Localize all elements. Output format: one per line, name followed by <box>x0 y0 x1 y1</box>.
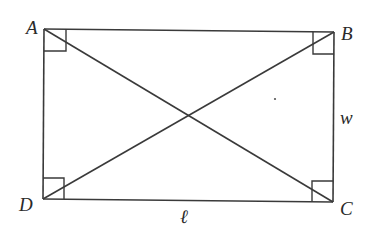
vertex-label-a: A <box>24 17 38 38</box>
side-ab <box>44 29 334 32</box>
vertex-label-d: D <box>18 194 33 215</box>
stray-dot <box>274 98 276 100</box>
side-da <box>43 29 44 199</box>
side-label-length: ℓ <box>180 206 188 227</box>
side-cd <box>43 199 333 202</box>
vertex-label-c: C <box>340 198 353 219</box>
side-label-width: w <box>340 107 353 128</box>
side-bc <box>333 32 334 202</box>
vertex-label-b: B <box>341 23 353 44</box>
rectangle-diagram: A B C D w ℓ <box>0 0 372 235</box>
diagonal-bd <box>43 32 334 199</box>
